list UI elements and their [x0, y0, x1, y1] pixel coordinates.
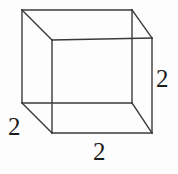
dimension-label-right: 2 [156, 66, 169, 91]
edge-bottom-right-icon [132, 103, 152, 133]
cube-wireframe-svg [0, 0, 178, 174]
front-face-group [52, 38, 152, 133]
edge-top-right-icon [132, 10, 152, 38]
front-edge-top [52, 38, 152, 40]
cube-figure: 2 2 2 [0, 0, 178, 174]
dimension-label-bottom: 2 [93, 139, 106, 164]
back-face-group [22, 10, 132, 103]
dimension-label-left: 2 [8, 114, 21, 139]
edge-top-left-icon [22, 10, 52, 40]
edge-bottom-left-icon [22, 103, 52, 133]
